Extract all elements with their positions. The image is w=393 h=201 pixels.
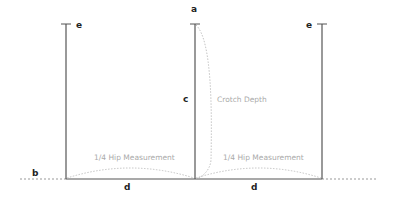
hip-arc-right bbox=[196, 168, 321, 178]
point-e-left-label: e bbox=[76, 21, 82, 30]
diagram-canvas bbox=[0, 0, 393, 201]
point-d-left-label: d bbox=[124, 183, 130, 192]
point-e-right-label: e bbox=[306, 21, 312, 30]
point-a-label: a bbox=[191, 5, 197, 14]
hip-measurement-right-label: 1/4 Hip Measurement bbox=[223, 154, 304, 162]
crotch-depth-label: Crotch Depth bbox=[217, 96, 267, 104]
point-c-label: c bbox=[183, 95, 188, 104]
hip-measurement-left-label: 1/4 Hip Measurement bbox=[94, 154, 175, 162]
point-b-label: b bbox=[32, 169, 38, 178]
crotch-depth-arc bbox=[196, 25, 211, 179]
hip-arc-left bbox=[67, 168, 194, 178]
point-d-right-label: d bbox=[251, 183, 257, 192]
